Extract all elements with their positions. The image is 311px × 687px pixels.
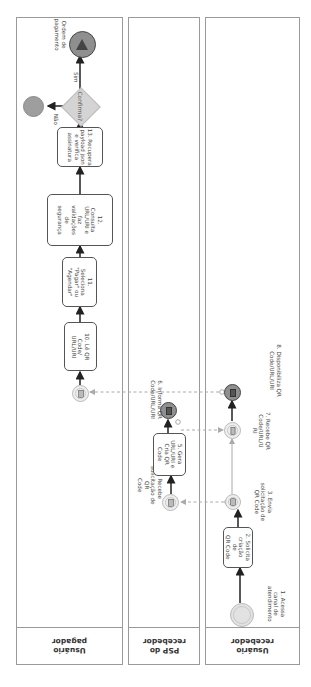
flow-connectors [0, 0, 311, 687]
label-n3: 3. Envia solicitação de QR Code [238, 488, 288, 516]
task-consulta-url-validacoes[interactable]: 12. Consulta URL/URI e faz validações de… [47, 194, 113, 246]
end-event-ordem-pagamento[interactable] [69, 31, 96, 58]
end-event-nao[interactable] [23, 96, 44, 117]
label-n6: 6. Informa QR Code/URL/URI [136, 380, 176, 420]
message-event-recebe-pagador[interactable] [72, 385, 89, 402]
triangle-icon [70, 32, 94, 56]
task-seleciona-pagar-agendar[interactable]: 11. Seleciona "Pagar" ou "Agendar" [62, 257, 97, 307]
task-recupera-payload[interactable]: 13. Recupera payload json e verifica ass… [57, 127, 103, 167]
label-nao: Não [50, 112, 62, 126]
task-le-qr-code[interactable]: 10. Lê QR Code/ URL/URI [64, 322, 97, 371]
label-ordem-pagamento: Ordem de pagamento [50, 20, 70, 50]
task-gera-url-qr[interactable]: 5. Gera URL/URI e Cria QR Code [153, 433, 186, 476]
message-end-event-disponibiliza[interactable] [224, 384, 241, 401]
label-n8: 8. Disponibiliza QR Code/URL/URI [245, 356, 305, 386]
label-sim: Sim [69, 70, 81, 84]
envelope-icon [230, 389, 236, 397]
label-gateway: Confirma? [60, 96, 100, 116]
envelope-icon [78, 390, 84, 398]
envelope-icon [230, 427, 235, 435]
envelope-icon [230, 498, 236, 506]
label-n1: 1. Acessa canal de atendimento [246, 590, 306, 618]
label-n7: 7. Recebe QR Code/URL/U RI [238, 416, 284, 446]
task-solicita-criacao-qr[interactable]: 2. Solicita criação de QR Code [223, 527, 253, 568]
